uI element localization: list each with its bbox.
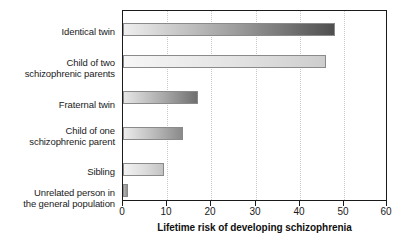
gridline-20 [211,11,213,200]
x-tick-label-10: 10 [160,206,171,217]
category-label-sibling: Sibling [87,166,115,177]
category-label-identical-twin: Identical twin [61,26,115,37]
bar-identical-twin [123,23,335,36]
bar-fraternal-twin [123,91,198,104]
horizontal-bar-chart: Identical twin Child of two schizophreni… [0,0,401,251]
x-axis-tick-labels: 0 10 20 30 40 50 60 [0,206,401,220]
x-tick-label-0: 0 [119,206,125,217]
x-axis-title: Lifetime risk of developing schizophreni… [122,222,387,233]
gridline-40 [300,11,302,200]
x-tick-label-40: 40 [293,206,304,217]
bar-child-of-two-schizophrenic-parents [123,55,326,68]
gridline-50 [344,11,346,200]
bar-sibling [123,163,164,176]
category-label-child-of-one-schizophrenic-parent: Child of one schizophrenic parent [29,125,115,147]
category-label-fraternal-twin: Fraternal twin [59,99,115,110]
category-axis-labels: Identical twin Child of two schizophreni… [0,10,119,201]
plot-area [122,10,387,201]
x-tick-label-50: 50 [337,206,348,217]
category-label-child-of-two-schizophrenic-parents: Child of two schizophrenic parents [25,57,115,79]
gridline-10 [167,11,169,200]
bar-unrelated-person-general-population [123,184,128,197]
bar-child-of-one-schizophrenic-parent [123,127,183,140]
x-tick-label-30: 30 [249,206,260,217]
x-tick-label-60: 60 [380,206,391,217]
gridline-30 [256,11,258,200]
x-tick-label-20: 20 [204,206,215,217]
